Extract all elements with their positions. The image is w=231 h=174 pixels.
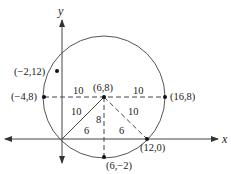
- x-intercept-point: [145, 137, 149, 141]
- left-point: [42, 95, 46, 99]
- x-axis-label: x: [221, 132, 228, 146]
- diag-right-label: 10: [128, 106, 139, 117]
- radius-to-x-intercept: [104, 97, 147, 139]
- bottom-point: [102, 155, 106, 159]
- base-right-label: 6: [119, 125, 124, 136]
- height-label: 8: [96, 114, 101, 125]
- diag-left-label: 10: [71, 106, 82, 117]
- center-label: (6,8): [93, 82, 114, 94]
- base-left-label: 6: [84, 125, 89, 136]
- left-radius-label: 10: [73, 85, 84, 96]
- x-intercept-label: (12,0): [140, 142, 166, 154]
- right-point-label: (16,8): [170, 91, 196, 103]
- right-point: [163, 95, 167, 99]
- right-radius-label: 10: [133, 85, 144, 96]
- outside-point: [55, 69, 59, 73]
- bottom-point-label: (6,−2): [106, 160, 133, 172]
- center-point: [102, 95, 106, 99]
- left-point-label: (−4,8): [11, 91, 38, 103]
- y-axis-label: y: [57, 4, 64, 18]
- circle-coordinate-diagram: x y (6,8) (−4,8) (16,8) (6,−2) (12,0) (−…: [0, 0, 231, 174]
- outside-point-label: (−2,12): [14, 66, 46, 78]
